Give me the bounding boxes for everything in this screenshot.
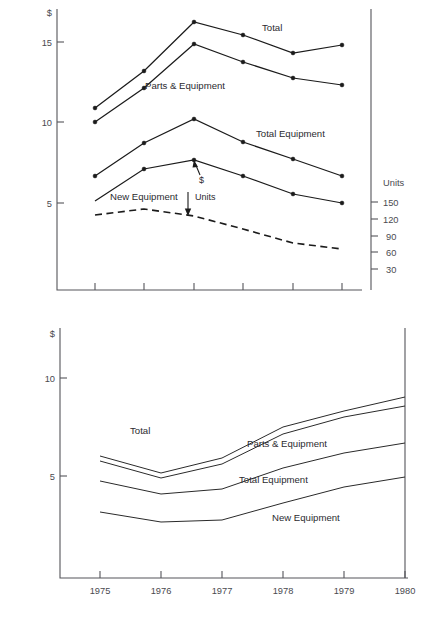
figure-container: $ 15 10 5 Units 150 120 90 60 30 xyxy=(0,0,435,617)
top-series-total-equipment-markers xyxy=(93,117,344,178)
bottom-xtick-label-1978: 1978 xyxy=(273,586,294,596)
bottom-ytick-label-10: 10 xyxy=(45,374,55,384)
bottom-label-parts-equipment: Parts & Equipment xyxy=(247,438,327,449)
bottom-xtick-label-1975: 1975 xyxy=(90,586,111,596)
bottom-ytick-label-5: 5 xyxy=(50,472,55,482)
units-annotation: Units xyxy=(185,192,216,216)
top-panel: $ 15 10 5 Units 150 120 90 60 30 xyxy=(42,8,405,290)
bottom-xtick-label-1980: 1980 xyxy=(395,586,416,596)
top-units-label-120: 120 xyxy=(383,215,399,225)
bottom-xtick-label-1976: 1976 xyxy=(151,586,172,596)
bottom-panel-axes xyxy=(60,328,408,578)
units-annotation-label: Units xyxy=(195,192,216,202)
bottom-label-total: Total xyxy=(130,425,150,436)
dollar-annotation-label: $ xyxy=(199,175,204,185)
bottom-yaxis-unit-symbol: $ xyxy=(50,329,56,339)
bottom-panel: $ 10 5 1975 1976 1977 1978 1979 1980 Tot… xyxy=(45,328,416,596)
top-label-total-equipment: Total Equipment xyxy=(256,128,325,139)
top-label-total: Total xyxy=(262,22,282,33)
top-ytick-label-5: 5 xyxy=(47,199,52,209)
top-right-axis-title: Units xyxy=(383,178,405,188)
top-ytick-label-15: 15 xyxy=(42,38,52,48)
top-series-total-line xyxy=(95,22,342,108)
dollar-annotation: $ xyxy=(193,160,205,185)
top-panel-axes xyxy=(57,9,362,290)
top-label-new-equipment: New Equipment xyxy=(110,191,178,202)
figure-svg: $ 15 10 5 Units 150 120 90 60 30 xyxy=(0,0,435,617)
top-ytick-label-10: 10 xyxy=(42,118,52,128)
top-units-label-30: 30 xyxy=(386,265,396,275)
bottom-xtick-label-1979: 1979 xyxy=(334,586,355,596)
bottom-xtick-label-1977: 1977 xyxy=(212,586,233,596)
top-series-units-dashed-line xyxy=(95,209,342,249)
bottom-label-new-equipment: New Equipment xyxy=(272,512,340,523)
top-series-total-markers xyxy=(93,20,344,110)
top-label-parts-equipment: Parts & Equipment xyxy=(145,80,225,91)
top-units-label-60: 60 xyxy=(386,248,396,258)
top-yaxis-unit-symbol: $ xyxy=(47,8,53,18)
bottom-label-total-equipment: Total Equipment xyxy=(239,474,308,485)
top-units-label-150: 150 xyxy=(383,198,399,208)
top-units-label-90: 90 xyxy=(386,232,396,242)
